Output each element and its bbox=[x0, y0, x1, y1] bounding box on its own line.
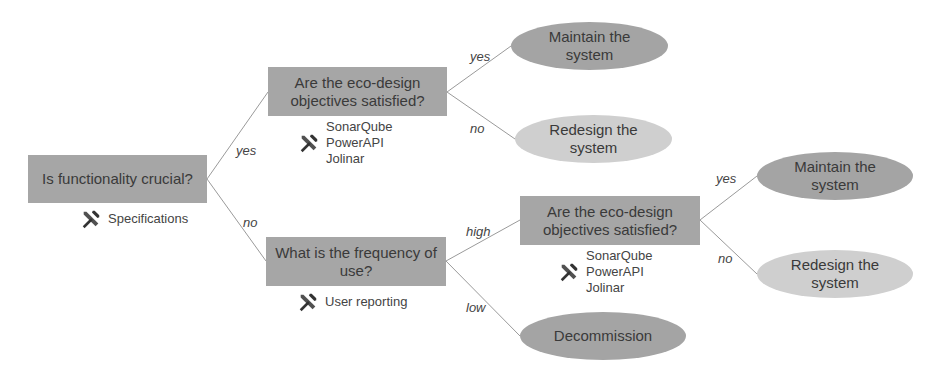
question-node-eco-objectives: Are the eco-design objectives satisfied? bbox=[268, 67, 447, 116]
node-label: Are the eco-design objectives satisfied? bbox=[526, 203, 694, 239]
tools-icon bbox=[558, 261, 580, 283]
tools-icon bbox=[80, 208, 102, 230]
tool-name: SonarQube bbox=[586, 248, 653, 264]
outcome-label: Redesign the system bbox=[785, 256, 885, 292]
outcome-label: Redesign the system bbox=[544, 121, 644, 157]
outcome-label: Maintain the system bbox=[540, 28, 640, 64]
outcome-redesign: Redesign the system bbox=[515, 115, 672, 163]
outcome-maintain: Maintain the system bbox=[757, 152, 913, 200]
tool-name: Jolinar bbox=[586, 280, 653, 296]
edge-label-high: high bbox=[466, 224, 491, 239]
outcome-redesign: Redesign the system bbox=[757, 250, 913, 298]
edge-label-low: low bbox=[466, 300, 486, 315]
question-node-frequency: What is the frequency of use? bbox=[266, 237, 446, 286]
tool-name: Jolinar bbox=[326, 151, 393, 167]
node-label: What is the frequency of use? bbox=[272, 244, 440, 280]
edge-label-yes: yes bbox=[716, 171, 736, 186]
question-node-eco-objectives: Are the eco-design objectives satisfied? bbox=[520, 196, 700, 245]
edge-label-yes: yes bbox=[236, 143, 256, 158]
tool-name: User reporting bbox=[325, 294, 407, 310]
tools-annotation: User reporting bbox=[297, 291, 407, 313]
edge-label-no: no bbox=[718, 251, 732, 266]
tools-icon bbox=[297, 291, 319, 313]
outcome-label: Decommission bbox=[554, 327, 652, 345]
outcome-maintain: Maintain the system bbox=[511, 22, 668, 70]
tools-icon bbox=[298, 132, 320, 154]
node-label: Is functionality crucial? bbox=[42, 170, 193, 188]
tools-annotation: SonarQube PowerAPI Jolinar bbox=[298, 119, 393, 167]
tools-annotation: Specifications bbox=[80, 208, 188, 230]
edge-label-no: no bbox=[243, 215, 257, 230]
question-node-functionality: Is functionality crucial? bbox=[28, 155, 207, 203]
outcome-label: Maintain the system bbox=[785, 158, 885, 194]
node-label: Are the eco-design objectives satisfied? bbox=[274, 74, 441, 110]
tool-name: PowerAPI bbox=[326, 135, 393, 151]
tool-name: PowerAPI bbox=[586, 264, 653, 280]
edge-label-no: no bbox=[470, 121, 484, 136]
edge-label-yes: yes bbox=[470, 49, 490, 64]
tool-name: Specifications bbox=[108, 211, 188, 227]
tool-name: SonarQube bbox=[326, 119, 393, 135]
outcome-decommission: Decommission bbox=[520, 312, 686, 360]
tools-annotation: SonarQube PowerAPI Jolinar bbox=[558, 248, 653, 296]
